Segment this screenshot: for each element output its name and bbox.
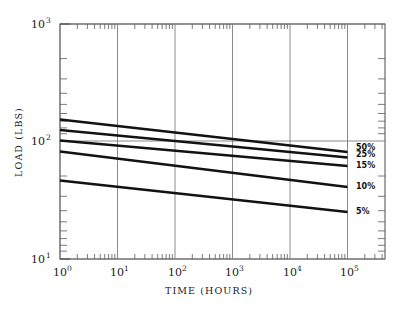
y-axis-title: LOAD (LBS) — [13, 107, 24, 177]
x-tick-label-1e2-exp: 2 — [182, 264, 187, 273]
y-minor-ticks-right — [378, 59, 385, 252]
x-tick-label-1e0-base: 10 — [53, 266, 67, 279]
x-tick-label-1e4-base: 10 — [283, 266, 297, 279]
y-tick-label-1e2-exp: 2 — [46, 133, 51, 142]
x-minor-ticks-bottom — [77, 254, 382, 259]
series-label-25pct: 25% — [356, 150, 375, 159]
series-label-10pct: 10% — [356, 182, 375, 191]
series-line-5pct — [60, 181, 348, 213]
x-tick-label-1e3-base: 10 — [225, 266, 239, 279]
series-label-5pct: 5% — [356, 207, 370, 216]
x-axis-title: TIME (HOURS) — [165, 285, 253, 296]
x-tick-label-1e1-exp: 1 — [124, 264, 129, 273]
x-tick-label-1e3-exp: 3 — [239, 264, 244, 273]
x-tick-label-1e4-exp: 4 — [297, 264, 302, 273]
x-tick-label-1e2-base: 10 — [168, 266, 182, 279]
chart-figure: 50% 25% 15% 10% 5% 10 3 10 2 10 1 10 0 1… — [0, 0, 404, 309]
plot-frame — [60, 24, 385, 259]
y-tick-label-1e3-exp: 3 — [46, 16, 51, 25]
x-minor-ticks-top — [77, 24, 382, 29]
data-series-group — [60, 120, 348, 213]
series-line-50pct — [60, 120, 348, 153]
y-tick-labels: 10 3 10 2 10 1 — [31, 16, 51, 266]
y-tick-label-1e2-base: 10 — [31, 135, 45, 148]
x-gridlines — [60, 24, 348, 259]
x-tick-label-1e0-exp: 0 — [67, 264, 72, 273]
x-tick-labels: 10 0 10 1 10 2 10 3 10 4 10 5 — [53, 264, 359, 279]
x-tick-label-1e5-base: 10 — [340, 266, 354, 279]
series-labels-group: 50% 25% 15% 10% 5% — [356, 143, 375, 216]
series-label-15pct: 15% — [356, 161, 375, 170]
log-log-load-time-chart: 50% 25% 15% 10% 5% 10 3 10 2 10 1 10 0 1… — [0, 0, 404, 309]
y-tick-label-1e3-base: 10 — [31, 18, 45, 31]
series-line-10pct — [60, 152, 348, 188]
y-tick-label-1e1-base: 10 — [31, 253, 45, 266]
x-tick-label-1e5-exp: 5 — [354, 264, 359, 273]
y-tick-label-1e1-exp: 1 — [46, 251, 51, 260]
y-gridlines — [60, 24, 385, 259]
x-tick-label-1e1-base: 10 — [110, 266, 124, 279]
